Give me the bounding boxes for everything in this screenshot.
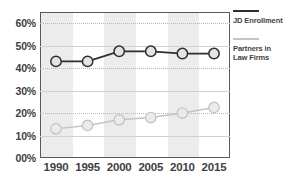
legend-item-jd-enrollment: JD Enrollment	[233, 10, 295, 26]
data-point-marker	[146, 46, 156, 56]
x-axis-labels: 199019952000200520102015	[40, 161, 230, 181]
y-axis-tick-label: 50%	[2, 40, 36, 52]
data-point-marker	[114, 46, 124, 56]
legend-swatch-line-icon	[233, 10, 259, 12]
legend-swatch-line-icon	[233, 38, 259, 40]
legend-label-line-1: Partners in	[233, 44, 271, 53]
y-axis-tick-label: 40%	[2, 62, 36, 74]
data-point-marker	[51, 56, 61, 66]
legend-label-line-2: Law Firms	[233, 53, 269, 62]
legend-label-jd-enrollment: JD Enrollment	[233, 16, 295, 26]
data-point-marker	[146, 112, 156, 122]
y-axis-tick-label: 30%	[2, 85, 36, 97]
series-line	[56, 107, 214, 128]
data-point-marker	[209, 102, 219, 112]
y-axis-labels: 00%10%20%30%40%50%60%	[0, 12, 36, 158]
x-axis-tick-label: 2015	[194, 161, 234, 173]
y-axis-tick-label: 10%	[2, 130, 36, 142]
chart-screenshot: 00%10%20%30%40%50%60% 199019952000200520…	[0, 0, 296, 183]
legend-item-partners-in-law-firms: Partners in Law Firms	[233, 38, 295, 63]
series-line	[56, 51, 214, 61]
data-point-marker	[209, 48, 219, 58]
series-layer	[40, 12, 230, 158]
legend: JD Enrollment Partners in Law Firms	[233, 10, 295, 75]
legend-label-partners-in-law-firms: Partners in Law Firms	[233, 44, 295, 63]
y-axis-tick-label: 00%	[2, 152, 36, 164]
data-point-marker	[51, 124, 61, 134]
data-point-marker	[114, 115, 124, 125]
y-axis-tick-label: 60%	[2, 17, 36, 29]
data-point-marker	[177, 108, 187, 118]
data-point-marker	[82, 120, 92, 130]
data-point-marker	[177, 48, 187, 58]
y-axis-tick-label: 20%	[2, 107, 36, 119]
plot-area	[40, 12, 230, 158]
data-point-marker	[82, 56, 92, 66]
